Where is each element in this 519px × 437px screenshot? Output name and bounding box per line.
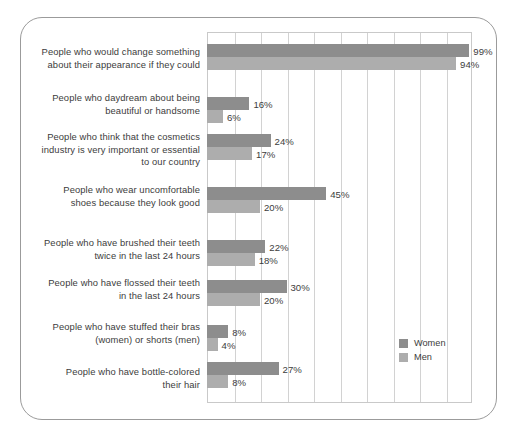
- gridline-30: [288, 33, 289, 402]
- category-label-line: industry is very important or essential: [24, 144, 200, 157]
- category-label-line: in the last 24 hours: [24, 290, 200, 303]
- grouped-bar-chart: People who would change somethingabout t…: [0, 0, 519, 437]
- bar-value-label: 8%: [232, 376, 246, 387]
- category-label-line: People who have flossed their teeth: [24, 277, 200, 290]
- gridline-20: [261, 33, 262, 402]
- bar-men: 20%: [207, 200, 260, 213]
- category-label: People who have bottle-coloredtheir hair: [24, 366, 200, 391]
- category-label: People who wear uncomfortableshoes becau…: [24, 184, 200, 209]
- bar-value-label: 20%: [264, 294, 283, 305]
- category-label-line: about their appearance if they could: [24, 59, 200, 72]
- category-label: People who would change somethingabout t…: [24, 46, 200, 71]
- category-label-line: People who wear uncomfortable: [24, 184, 200, 197]
- category-label-line: People who daydream about being: [24, 92, 200, 105]
- category-label: People who have stuffed their bras(women…: [24, 321, 200, 346]
- bar-value-label: 22%: [269, 241, 288, 252]
- bar-value-label: 20%: [264, 201, 283, 212]
- bar-value-label: 6%: [227, 111, 241, 122]
- gridline-50: [341, 33, 342, 402]
- legend-label-men: Men: [414, 352, 432, 362]
- bar-value-label: 94%: [460, 58, 479, 69]
- bar-men: 94%: [207, 57, 456, 70]
- bar-value-label: 27%: [283, 363, 302, 374]
- bar-men: 17%: [207, 147, 252, 160]
- bar-value-label: 99%: [473, 45, 492, 56]
- bar-value-label: 8%: [232, 326, 246, 337]
- bar-women: 24%: [207, 134, 271, 147]
- chart-legend: Women Men: [399, 337, 446, 365]
- bar-women: 99%: [207, 44, 469, 57]
- bar-men: 8%: [207, 375, 228, 388]
- category-label-line: to our country: [24, 156, 200, 169]
- chart-figure: People who would change somethingabout t…: [0, 0, 519, 437]
- bar-value-label: 30%: [291, 281, 310, 292]
- bar-group: 24%17%: [207, 134, 271, 160]
- bar-value-label: 4%: [222, 339, 236, 350]
- category-label-line: People who think that the cosmetics: [24, 131, 200, 144]
- gridline-90: [447, 33, 448, 402]
- bar-value-label: 24%: [275, 135, 294, 146]
- bar-group: 99%94%: [207, 44, 469, 70]
- bar-group: 45%20%: [207, 187, 326, 213]
- bar-men: 20%: [207, 293, 260, 306]
- bar-men: 4%: [207, 338, 218, 351]
- category-label-line: twice in the last 24 hours: [24, 250, 200, 263]
- category-label-line: beautiful or handsome: [24, 105, 200, 118]
- bar-women: 45%: [207, 187, 326, 200]
- legend-swatch-women-icon: [399, 339, 408, 348]
- category-label: People who have flossed their teethin th…: [24, 277, 200, 302]
- category-label-line: their hair: [24, 379, 200, 392]
- gridline-60: [367, 33, 368, 402]
- bar-group: 30%20%: [207, 280, 287, 306]
- gridline-70: [394, 33, 395, 402]
- legend-swatch-men-icon: [399, 353, 408, 362]
- legend-label-women: Women: [414, 338, 446, 348]
- category-label: People who have brushed their teethtwice…: [24, 237, 200, 262]
- bar-women: 22%: [207, 240, 265, 253]
- category-label: People who daydream about beingbeautiful…: [24, 92, 200, 117]
- category-label-line: People who would change something: [24, 46, 200, 59]
- bar-women: 16%: [207, 97, 249, 110]
- category-label-line: (women) or shorts (men): [24, 334, 200, 347]
- bar-value-label: 17%: [256, 148, 275, 159]
- legend-item-women: Women: [399, 337, 446, 349]
- bar-value-label: 18%: [259, 254, 278, 265]
- bar-women: 27%: [207, 362, 279, 375]
- bar-group: 16%6%: [207, 97, 249, 123]
- bar-group: 27%8%: [207, 362, 279, 388]
- bar-men: 18%: [207, 253, 255, 266]
- bar-men: 6%: [207, 110, 223, 123]
- bar-women: 30%: [207, 280, 287, 293]
- gridline-40: [314, 33, 315, 402]
- category-label-line: shoes because they look good: [24, 197, 200, 210]
- bar-value-label: 16%: [253, 98, 272, 109]
- bar-group: 22%18%: [207, 240, 265, 266]
- legend-item-men: Men: [399, 351, 446, 363]
- bar-group: 8%4%: [207, 325, 228, 351]
- category-label: People who think that the cosmeticsindus…: [24, 131, 200, 169]
- category-label-line: People who have brushed their teeth: [24, 237, 200, 250]
- category-label-line: People who have stuffed their bras: [24, 321, 200, 334]
- category-label-line: People who have bottle-colored: [24, 366, 200, 379]
- bar-value-label: 45%: [330, 188, 349, 199]
- bar-women: 8%: [207, 325, 228, 338]
